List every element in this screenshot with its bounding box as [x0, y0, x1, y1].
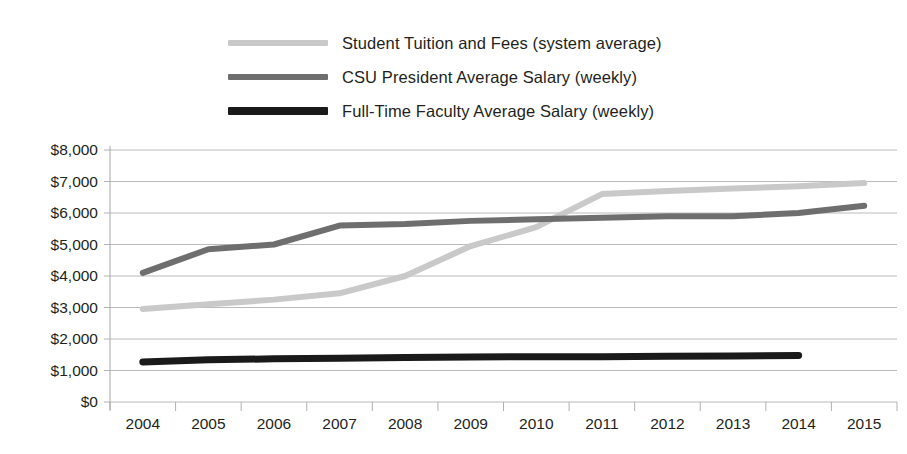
x-axis-tick-label: 2015 — [847, 415, 881, 432]
x-axis-tick-label: 2013 — [716, 415, 750, 432]
x-axis-tick-label: 2005 — [191, 415, 225, 432]
x-axis-tick-label: 2010 — [519, 415, 554, 432]
y-axis-tick-label: $0 — [81, 393, 99, 410]
x-axis-tick-label: 2006 — [257, 415, 291, 432]
x-axis-tick-label: 2008 — [388, 415, 422, 432]
x-axis-tick-label: 2009 — [453, 415, 487, 432]
x-axis-tick-label: 2014 — [781, 415, 816, 432]
y-axis-tick-label: $6,000 — [51, 204, 99, 221]
line-chart-plot: $0$1,000$2,000$3,000$4,000$5,000$6,000$7… — [0, 0, 907, 454]
x-axis-tick-label: 2011 — [585, 415, 618, 432]
series-line-2 — [143, 355, 799, 362]
y-axis-tick-label: $3,000 — [51, 299, 99, 316]
y-axis-tick-label: $4,000 — [51, 267, 99, 284]
y-axis-tick-label: $7,000 — [51, 173, 99, 190]
y-axis-tick-label: $8,000 — [51, 141, 99, 158]
x-axis-tick-label: 2004 — [126, 415, 161, 432]
chart-container: Student Tuition and Fees (system average… — [0, 0, 907, 454]
x-axis-tick-label: 2007 — [322, 415, 356, 432]
y-axis-tick-label: $2,000 — [51, 330, 99, 347]
x-axis-tick-label: 2012 — [650, 415, 684, 432]
plot-area-wrapper: $0$1,000$2,000$3,000$4,000$5,000$6,000$7… — [0, 0, 907, 454]
y-axis-tick-label: $1,000 — [51, 362, 99, 379]
y-axis-tick-label: $5,000 — [51, 236, 99, 253]
